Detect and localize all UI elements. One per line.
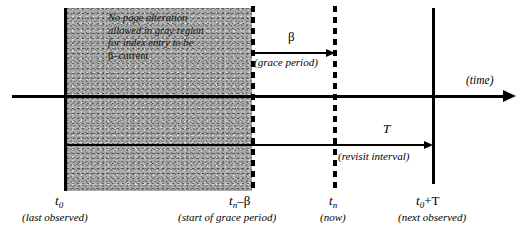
tick-label-tn: tn <box>329 193 337 210</box>
tick-caption-t0: (last observed) <box>22 211 88 223</box>
tick-group-tn: tn <box>329 193 337 210</box>
time-axis-caption: (time) <box>466 74 493 86</box>
tick-caption-tn: (now) <box>320 211 346 223</box>
tick-group-t0-plus-T: t0+T <box>416 193 439 210</box>
timeline-diagram: No page alteration allowed in gray regio… <box>0 0 519 232</box>
gray-region-note: No page alteration allowed in gray regio… <box>108 12 253 62</box>
beta-arrow-line <box>253 52 327 54</box>
tick-caption-t0-plus-T: (next observed) <box>398 211 466 223</box>
gray-note-line-3: for index entry to be <box>108 37 253 50</box>
tick-label-tn-minus-beta: tn–β <box>229 193 250 210</box>
T-symbol: T <box>383 121 390 137</box>
tick-label-t0-plus-T: t0+T <box>416 193 439 210</box>
beta-arrow-head <box>326 49 335 57</box>
tick-group-t0: t0 <box>55 193 63 210</box>
T-arrow-head <box>424 141 433 149</box>
time-axis-arrowhead <box>503 90 516 102</box>
beta-symbol: β <box>288 29 295 45</box>
gray-note-line-4: β–current <box>108 50 253 63</box>
tick-label-t0: t0 <box>55 193 63 210</box>
gray-note-line-2: allowed in gray region <box>108 25 253 38</box>
tick-caption-tn-minus-beta: (start of grace period) <box>178 211 276 223</box>
tn-now-dashed-line <box>333 6 337 192</box>
tn-minus-beta-dashed-line <box>251 6 255 192</box>
gray-note-line-1: No page alteration <box>108 12 253 25</box>
t0-boundary-line <box>64 8 67 191</box>
time-axis-line <box>12 95 504 98</box>
T-caption: (revisit interval) <box>338 150 409 162</box>
beta-caption: (grace period) <box>254 56 318 68</box>
T-arrow-line <box>66 144 426 146</box>
tick-group-tn-minus-beta: tn–β <box>229 193 250 210</box>
